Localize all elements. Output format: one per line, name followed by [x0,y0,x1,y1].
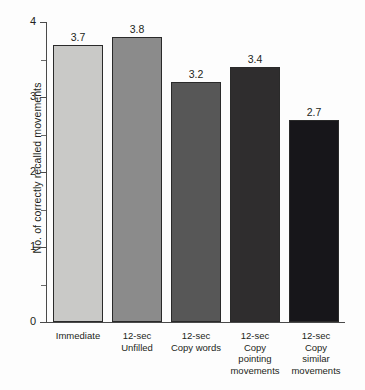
bar-immediate[interactable] [53,45,103,323]
bar-12sec-copy-similar[interactable] [289,120,339,323]
y-tick-3 [40,97,46,98]
y-tick-1 [40,247,46,248]
y-tick-label-0: 0 [6,316,36,327]
x-axis-label-immediate: Immediate [45,330,111,342]
bar-value-12sec-unfilled: 3.8 [112,24,162,35]
bar-value-12sec-copy-words: 3.2 [171,69,221,80]
bar-value-12sec-copy-similar: 2.7 [289,107,339,118]
y-tick-minor-0-5 [41,285,46,286]
y-axis-line [46,22,47,322]
y-tick-minor-1-5 [41,210,46,211]
bar-12sec-unfilled[interactable] [112,37,162,322]
bar-chart: No. of correctly recalled movements 4 3 … [0,0,365,390]
y-tick-label-4: 4 [6,16,36,27]
x-axis-label-12sec-copy-similar: 12-sec Copy similar movements [281,330,351,376]
bar-value-immediate: 3.7 [53,32,103,43]
bar-12sec-copy-words[interactable] [171,82,221,322]
bar-12sec-copy-pointing[interactable] [230,67,280,322]
y-tick-label-3: 3 [6,91,36,102]
y-tick-minor-3-5 [41,60,46,61]
x-axis-label-12sec-copy-words: 12-sec Copy words [163,330,229,353]
x-axis-label-12sec-unfilled: 12-sec Unfilled [104,330,170,353]
y-tick-label-2: 2 [6,166,36,177]
x-axis-label-12sec-copy-pointing: 12-sec Copy pointing movements [222,330,288,376]
y-tick-label-1: 1 [6,241,36,252]
y-tick-4 [40,22,46,23]
x-axis-line [46,322,345,323]
y-tick-minor-2-5 [41,135,46,136]
bar-value-12sec-copy-pointing: 3.4 [230,54,280,65]
y-tick-2 [40,172,46,173]
